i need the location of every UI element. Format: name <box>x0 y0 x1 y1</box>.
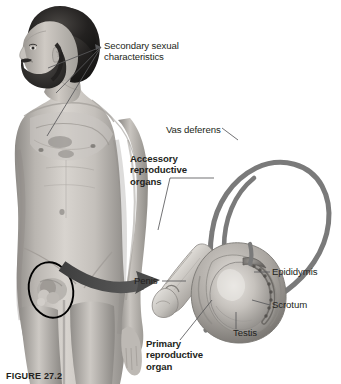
male-reproductive-organs-detail <box>152 162 329 343</box>
label-penis: Penis <box>134 275 158 286</box>
label-testis: Testis <box>233 327 257 338</box>
figure-container: Secondary sexual characteristics Vas def… <box>0 0 341 384</box>
figure-caption: FIGURE 27.2 <box>6 371 62 381</box>
label-accessory-reproductive-organs: Accessory reproductive organs <box>130 153 187 187</box>
label-secondary-sexual-characteristics: Secondary sexual characteristics <box>104 40 179 63</box>
label-epididymis: Epididymis <box>272 266 317 277</box>
label-vas-deferens: Vas deferens <box>166 124 221 135</box>
label-primary-reproductive-organ: Primary reproductive organ <box>146 338 203 372</box>
label-scrotum: Scrotum <box>272 299 307 310</box>
